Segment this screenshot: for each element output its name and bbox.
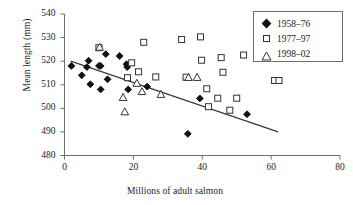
legend-item-2: 1998–02	[260, 46, 342, 61]
legend-label-2: 1998–02	[277, 49, 310, 59]
y-axis-ticks	[61, 14, 65, 156]
data-point-s2-7	[193, 73, 201, 80]
legend-label-1: 1977–97	[277, 34, 310, 44]
data-point-s1-1	[125, 75, 131, 81]
x-tick-label: 60	[259, 162, 283, 172]
y-tick-label: 490	[30, 126, 56, 136]
y-tick-label: 530	[30, 32, 56, 42]
data-point-s1-19	[276, 78, 282, 84]
data-point-s0-16	[196, 95, 203, 102]
x-tick-label: 80	[328, 162, 352, 172]
y-tick-label: 520	[30, 55, 56, 65]
data-point-s1-2	[129, 60, 135, 66]
legend-item-0: 1958–76	[260, 16, 342, 31]
data-point-s2-4	[138, 88, 146, 95]
data-point-s0-9	[104, 76, 111, 83]
open-square-icon	[260, 33, 274, 45]
legend: 1958–76 1977–97 1998–02	[253, 11, 343, 62]
x-tick-label: 20	[121, 162, 145, 172]
legend-label-0: 1958–76	[277, 19, 310, 29]
data-point-s0-13	[125, 86, 132, 93]
legend-item-1: 1977–97	[260, 31, 342, 46]
y-tick-label: 510	[30, 79, 56, 89]
data-point-s1-10	[204, 86, 210, 92]
data-point-s0-8	[102, 51, 109, 58]
data-point-s2-1	[119, 93, 127, 100]
data-point-s1-13	[218, 55, 224, 61]
data-point-s0-1	[78, 72, 85, 79]
data-point-s0-2	[83, 64, 90, 71]
data-point-s2-2	[121, 108, 129, 115]
x-tick-label: 0	[53, 162, 77, 172]
x-axis-title: Millions of adult salmon	[60, 186, 290, 196]
data-point-s1-4	[141, 39, 147, 45]
data-point-s0-10	[116, 53, 123, 60]
data-point-s0-4	[87, 81, 94, 88]
y-tick-label: 540	[30, 8, 56, 18]
data-point-s1-11	[205, 104, 211, 110]
data-point-s0-0	[68, 62, 75, 69]
data-point-s0-3	[85, 57, 92, 64]
data-point-s1-3	[136, 69, 142, 75]
y-tick-label: 500	[30, 102, 56, 112]
data-point-s1-12	[215, 95, 221, 101]
data-point-s1-14	[220, 69, 226, 75]
open-triangle-icon	[260, 48, 274, 60]
data-point-s1-17	[241, 52, 247, 58]
data-point-s1-6	[179, 36, 185, 42]
trend-line-path	[71, 61, 278, 132]
trend-line	[71, 61, 278, 132]
data-point-s0-15	[184, 130, 191, 137]
data-point-s0-14	[144, 83, 151, 90]
data-point-s1-16	[234, 95, 240, 101]
data-point-s0-7	[97, 86, 104, 93]
x-tick-label: 40	[190, 162, 214, 172]
y-tick-label: 480	[30, 150, 56, 160]
data-point-s1-9	[199, 57, 205, 63]
data-point-s1-15	[227, 107, 233, 113]
data-point-s1-8	[198, 34, 204, 40]
scatter-chart: Mean length (mm) Millions of adult salmo…	[0, 0, 353, 205]
data-point-s0-17	[244, 111, 251, 118]
filled-diamond-icon	[260, 18, 274, 30]
data-point-s1-5	[153, 74, 159, 80]
x-axis-ticks	[65, 156, 341, 160]
